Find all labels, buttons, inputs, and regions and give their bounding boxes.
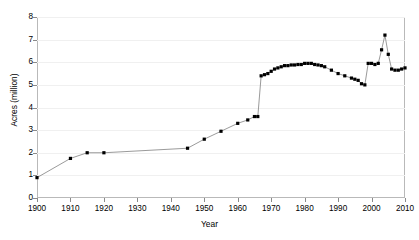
x-tickmark-1950 xyxy=(204,198,205,202)
data-point xyxy=(373,63,376,66)
series-markers-acres xyxy=(35,34,406,180)
data-point xyxy=(256,115,259,118)
x-tickmark-1990 xyxy=(338,198,339,202)
line-chart: 876543210 Acres (million) 19001910192019… xyxy=(0,0,419,240)
x-tickmark-1930 xyxy=(137,198,138,202)
y-tick-label-0: 0 xyxy=(11,194,33,202)
x-axis-title: Year xyxy=(0,219,419,229)
data-point xyxy=(303,62,306,65)
data-point xyxy=(310,62,313,65)
y-tick-label-7: 7 xyxy=(11,36,33,44)
x-tick-label-1930: 1930 xyxy=(119,204,155,213)
x-tickmark-2010 xyxy=(405,198,406,202)
data-point xyxy=(270,70,273,73)
data-series-layer xyxy=(37,17,405,198)
x-tickmark-1910 xyxy=(70,198,71,202)
data-point xyxy=(370,62,373,65)
data-point xyxy=(377,62,380,65)
data-point xyxy=(203,138,206,141)
data-point xyxy=(323,65,326,68)
x-tick-label-2010: 2010 xyxy=(387,204,419,213)
y-tick-label-1: 1 xyxy=(11,171,33,179)
data-point xyxy=(397,69,400,72)
data-point xyxy=(313,63,316,66)
x-tick-label-1900: 1900 xyxy=(19,204,55,213)
x-tickmark-1960 xyxy=(238,198,239,202)
data-point xyxy=(276,66,279,69)
data-point xyxy=(393,69,396,72)
x-tick-label-1990: 1990 xyxy=(320,204,356,213)
data-point xyxy=(390,67,393,70)
y-axis-title: Acres (million) xyxy=(9,55,19,145)
x-tickmark-1920 xyxy=(104,198,105,202)
data-point xyxy=(280,65,283,68)
x-tick-label-2000: 2000 xyxy=(354,204,390,213)
data-point xyxy=(400,67,403,70)
data-point xyxy=(266,72,269,75)
x-tick-label-1940: 1940 xyxy=(153,204,189,213)
data-point xyxy=(380,48,383,51)
data-point xyxy=(290,63,293,66)
data-point xyxy=(253,115,256,118)
y-tick-label-2: 2 xyxy=(11,149,33,157)
x-tickmark-1940 xyxy=(171,198,172,202)
x-tickmark-2000 xyxy=(372,198,373,202)
data-point xyxy=(186,147,189,150)
x-tick-label-1970: 1970 xyxy=(253,204,289,213)
data-point xyxy=(286,64,289,67)
x-tickmark-1970 xyxy=(271,198,272,202)
data-point xyxy=(35,176,38,179)
chart-title xyxy=(6,0,413,4)
data-point xyxy=(316,63,319,66)
data-point xyxy=(219,130,222,133)
data-point xyxy=(383,34,386,37)
data-point xyxy=(350,76,353,79)
data-point xyxy=(263,73,266,76)
data-point xyxy=(273,67,276,70)
data-point xyxy=(387,53,390,56)
data-point xyxy=(357,79,360,82)
data-point xyxy=(306,62,309,65)
x-tickmark-1900 xyxy=(37,198,38,202)
data-point xyxy=(69,157,72,160)
x-tick-label-1960: 1960 xyxy=(220,204,256,213)
data-point xyxy=(102,151,105,154)
data-point xyxy=(403,66,406,69)
data-point xyxy=(260,74,263,77)
y-tick-label-8: 8 xyxy=(11,13,33,21)
series-line-acres xyxy=(37,35,405,178)
data-point xyxy=(86,151,89,154)
data-point xyxy=(320,64,323,67)
data-point xyxy=(300,63,303,66)
data-point xyxy=(353,78,356,81)
data-point xyxy=(360,82,363,85)
data-point xyxy=(293,63,296,66)
data-point xyxy=(336,72,339,75)
data-point xyxy=(246,118,249,121)
data-point xyxy=(236,122,239,125)
data-point xyxy=(330,69,333,72)
x-tick-label-1980: 1980 xyxy=(287,204,323,213)
data-point xyxy=(343,74,346,77)
data-point xyxy=(296,63,299,66)
x-tick-label-1950: 1950 xyxy=(186,204,222,213)
data-point xyxy=(283,64,286,67)
data-point xyxy=(367,62,370,65)
x-tick-label-1910: 1910 xyxy=(52,204,88,213)
x-tickmark-1980 xyxy=(305,198,306,202)
x-tick-label-1920: 1920 xyxy=(86,204,122,213)
data-point xyxy=(363,83,366,86)
